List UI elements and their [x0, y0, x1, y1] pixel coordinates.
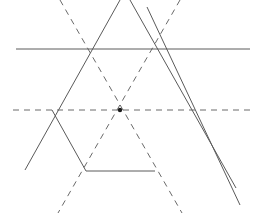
geometry-figure: [0, 0, 258, 213]
center-point-dot: [118, 108, 122, 112]
figure-background: [0, 0, 258, 213]
figure-canvas: [0, 0, 258, 213]
